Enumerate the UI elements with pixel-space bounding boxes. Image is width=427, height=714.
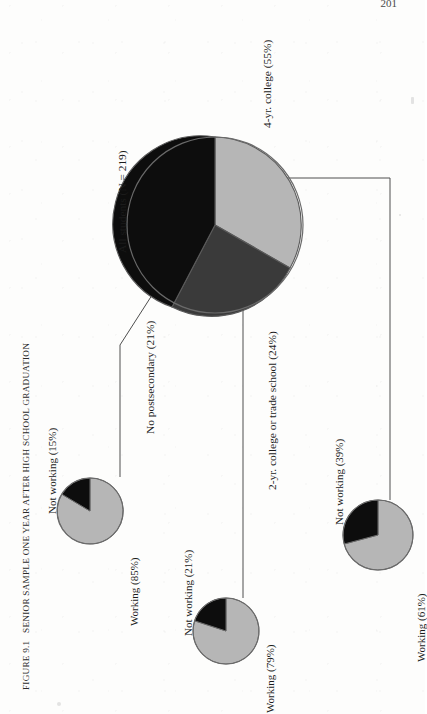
- label-subpie2-not-working: Not working (21%): [183, 550, 194, 636]
- label-subpie1-not-working: Not working (15%): [47, 428, 58, 514]
- scan-speck: [57, 702, 61, 706]
- figure-caption: FIGURE 9.1 SENIOR SAMPLE ONE YEAR AFTER …: [22, 343, 31, 690]
- figure-title-text: SENIOR SAMPLE ONE YEAR AFTER HIGH SCHOOL…: [21, 343, 31, 633]
- subpie-two-year-trade: [193, 598, 259, 664]
- leader-line-no-postsecondary: [120, 278, 163, 477]
- scan-speck: [399, 214, 401, 216]
- label-no-postsecondary: No postsecondary (21%): [145, 321, 156, 434]
- subpie-no-postsecondary: [57, 478, 123, 544]
- label-subpie1-working: Working (85%): [129, 558, 140, 626]
- label-four-year-college: 4-yr. college (55%): [262, 40, 273, 128]
- figure-number: FIGURE 9.1: [21, 641, 31, 690]
- label-subpie3-working: Working (61%): [416, 594, 427, 662]
- label-subpie3-not-working: Not working (39%): [334, 439, 345, 525]
- label-two-year-trade: 2-yr. college or trade school (24%): [267, 331, 278, 490]
- subpie-four-year-college: [343, 500, 413, 570]
- main-pie: [113, 136, 303, 316]
- scan-speck: [411, 97, 414, 104]
- label-all-students: All students (N = 219): [117, 150, 128, 253]
- label-subpie2-working: Working (79%): [265, 645, 276, 713]
